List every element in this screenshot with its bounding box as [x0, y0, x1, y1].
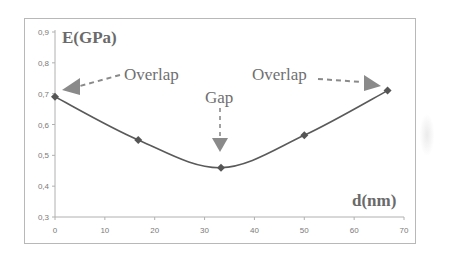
- y-tick-label: 0,9: [38, 28, 50, 37]
- y-tick-label: 0,3: [38, 213, 50, 222]
- x-axis-ticks: 010203040506070: [53, 217, 409, 235]
- y-axis-title: E(GPa): [62, 28, 117, 47]
- y-tick-label: 0,4: [38, 182, 50, 191]
- x-axis-title: d(nm): [352, 191, 396, 210]
- diamond-marker-icon: [300, 131, 308, 139]
- annotation-overlap-left: Overlap: [124, 65, 179, 84]
- annotation-gap: Gap: [205, 88, 233, 107]
- x-tick-label: 20: [150, 226, 159, 235]
- y-tick-label: 0,8: [38, 59, 50, 68]
- arrow-dash-right: [318, 79, 362, 82]
- arrow-head-right-icon: [364, 75, 381, 91]
- annotation-overlap-right: Overlap: [252, 65, 307, 84]
- diamond-marker-icon: [217, 164, 225, 172]
- arrow-dash-left: [80, 75, 120, 86]
- line-chart: 0,30,40,50,60,70,80,9 010203040506070 E(…: [0, 0, 452, 255]
- x-tick-label: 70: [400, 226, 409, 235]
- diamond-marker-icon: [384, 87, 392, 95]
- axes: [55, 30, 404, 217]
- x-tick-label: 50: [300, 226, 309, 235]
- y-tick-label: 0,7: [38, 90, 50, 99]
- arrow-head-left-icon: [62, 78, 80, 95]
- x-tick-label: 60: [350, 226, 359, 235]
- y-axis-ticks: 0,30,40,50,60,70,80,9: [38, 28, 55, 222]
- background-smudge: [420, 115, 434, 155]
- x-tick-label: 30: [200, 226, 209, 235]
- x-tick-label: 0: [53, 226, 58, 235]
- arrow-head-down-icon: [212, 138, 228, 152]
- diamond-marker-icon: [134, 136, 142, 144]
- y-tick-label: 0,6: [38, 121, 50, 130]
- x-tick-label: 40: [250, 226, 259, 235]
- x-tick-label: 10: [100, 226, 109, 235]
- y-tick-label: 0,5: [38, 151, 50, 160]
